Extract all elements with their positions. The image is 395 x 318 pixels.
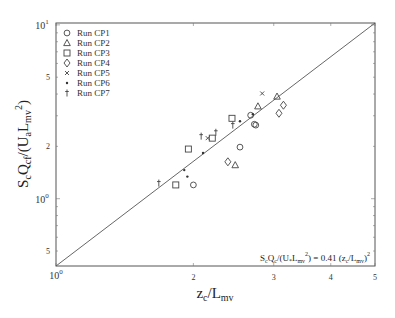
data-point xyxy=(276,109,282,117)
data-point xyxy=(185,146,191,152)
diamond-marker xyxy=(64,59,70,67)
circle-marker xyxy=(237,144,243,150)
data-point xyxy=(190,182,196,188)
data-point xyxy=(225,158,231,166)
legend-label: Run CP6 xyxy=(77,78,110,88)
legend-marker xyxy=(64,40,71,46)
data-point xyxy=(239,120,241,122)
diamond-marker xyxy=(280,101,286,109)
legend-label: Run CP4 xyxy=(77,58,110,68)
data-point xyxy=(186,175,188,177)
legend-marker xyxy=(64,59,70,67)
data-point xyxy=(252,113,254,115)
diamond-marker xyxy=(276,109,282,117)
y-tick-label: 101 xyxy=(35,18,49,31)
x-tick-label: 2 xyxy=(191,273,195,282)
data-point xyxy=(199,133,203,140)
triangle-marker xyxy=(232,162,239,168)
star-marker xyxy=(202,152,204,154)
triangle-marker xyxy=(64,40,71,46)
axis-labels: zc/LmvScQcf/(UaLmv2) xyxy=(13,100,234,303)
x-axis-label: zc/Lmv xyxy=(196,285,233,303)
diamond-marker xyxy=(225,158,231,166)
legend-label: Run CP7 xyxy=(77,88,110,98)
y-axis-label: ScQcf/(UaLmv2) xyxy=(13,100,33,188)
square-marker xyxy=(185,146,191,152)
legend-label: Run CP2 xyxy=(77,38,110,48)
data-point xyxy=(280,101,286,109)
legend-label: Run CP3 xyxy=(77,48,110,58)
legend-marker xyxy=(64,30,70,36)
data-point xyxy=(231,122,235,129)
star-marker xyxy=(183,169,185,171)
data-point xyxy=(237,144,243,150)
legend-marker xyxy=(65,71,69,75)
data-point xyxy=(209,135,215,141)
square-marker xyxy=(229,115,235,121)
y-axis-label-text: ScQcf/(UaLmv2) xyxy=(13,100,33,188)
square-marker xyxy=(173,182,179,188)
data-point xyxy=(229,115,235,121)
fit-annotation: ScQc/(U*Lmv2) = 0.41 (zc/Lmv)2 xyxy=(260,251,370,264)
legend-marker xyxy=(64,50,70,56)
y-tick-label: 5 xyxy=(46,247,50,256)
circle-marker xyxy=(190,182,196,188)
legend-label: Run CP1 xyxy=(77,28,110,38)
data-point xyxy=(232,162,239,168)
y-tick-label: 2 xyxy=(46,142,50,151)
y-tick-label: 5 xyxy=(46,73,50,82)
x-tick-label: 100 xyxy=(49,268,63,281)
legend-label: Run CP5 xyxy=(77,68,110,78)
star-marker xyxy=(66,82,68,84)
star-marker xyxy=(252,113,254,115)
circle-marker xyxy=(64,30,70,36)
triangle-marker xyxy=(255,103,262,109)
legend: Run CP1Run CP2Run CP3Run CP4Run CP5Run C… xyxy=(64,28,111,98)
data-point xyxy=(255,103,262,109)
data-point xyxy=(157,180,161,187)
star-marker xyxy=(186,175,188,177)
data-point xyxy=(183,169,185,171)
scatter-chart: 1002345510025101 Run CP1Run CP2Run CP3Ru… xyxy=(0,0,395,318)
star-marker xyxy=(239,120,241,122)
legend-marker xyxy=(66,82,68,84)
square-marker xyxy=(64,50,70,56)
x-tick-label: 5 xyxy=(373,273,377,282)
legend-marker xyxy=(65,90,69,97)
x-tick-label: 3 xyxy=(272,273,276,282)
y-tick-label: 100 xyxy=(35,192,49,205)
data-point xyxy=(173,182,179,188)
data-point xyxy=(202,152,204,154)
square-marker xyxy=(209,135,215,141)
x-tick-label: 4 xyxy=(329,273,333,282)
data-point xyxy=(260,91,264,95)
fit-equation: ScQc/(U*Lmv2) = 0.41 (zc/Lmv)2 xyxy=(260,251,370,264)
